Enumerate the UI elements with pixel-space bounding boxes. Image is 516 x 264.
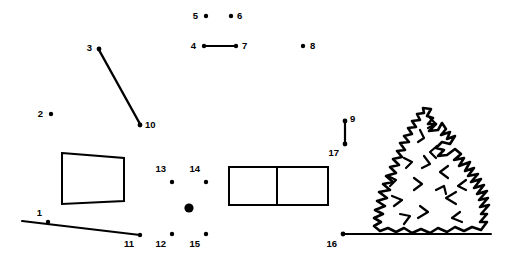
numbered-dot-13[interactable]: 13 xyxy=(155,163,174,184)
dot-marker xyxy=(49,112,53,116)
pine-tree-branch-mark xyxy=(418,206,428,218)
connector-lines-group xyxy=(99,46,345,143)
numbered-dot-10[interactable]: 10 xyxy=(138,119,156,130)
dot-marker xyxy=(138,123,143,128)
dot-marker xyxy=(204,180,208,184)
dot-marker xyxy=(138,233,142,237)
numbered-dot-1[interactable]: 1 xyxy=(37,207,50,224)
pine-tree-branch-mark xyxy=(422,156,430,168)
dot-number-label: 13 xyxy=(155,163,166,174)
pine-tree-branch-mark xyxy=(392,196,402,206)
dot-marker xyxy=(229,14,233,18)
dot-number-label: 12 xyxy=(155,238,166,249)
dot-marker xyxy=(234,44,238,48)
dot-number-label: 1 xyxy=(37,207,43,218)
numbered-dot-2[interactable]: 2 xyxy=(38,108,53,119)
numbered-dot-6[interactable]: 6 xyxy=(229,10,242,21)
dot-number-label: 17 xyxy=(328,147,339,158)
pine-tree-branch-mark xyxy=(418,130,424,142)
pine-tree-branch-mark xyxy=(404,158,412,168)
rectangle-right xyxy=(229,167,328,205)
dot-number-label: 11 xyxy=(124,238,135,249)
numbered-dot-7[interactable]: 7 xyxy=(234,40,247,51)
numbered-dot-4[interactable]: 4 xyxy=(191,40,206,51)
dot-number-label: 2 xyxy=(38,108,43,119)
pine-tree-branch-mark xyxy=(440,166,448,178)
dot-number-label: 9 xyxy=(350,113,355,124)
pine-tree-branch-mark xyxy=(458,180,466,190)
dot-number-label: 3 xyxy=(87,42,92,53)
unnumbered-marks-group xyxy=(184,203,193,212)
numbered-dot-17[interactable]: 17 xyxy=(328,142,347,158)
line-3-to-10 xyxy=(99,50,140,124)
dot-marker xyxy=(46,220,50,224)
dot-marker xyxy=(343,142,348,147)
connect-the-dots-scene: 1234567891011121314151617 xyxy=(0,0,516,264)
numbered-dot-3[interactable]: 3 xyxy=(87,42,102,53)
dot-marker xyxy=(170,180,174,184)
numbered-dot-5[interactable]: 5 xyxy=(193,10,208,21)
dot-number-label: 5 xyxy=(193,10,199,21)
pine-tree-branch-mark xyxy=(414,178,422,190)
pine-tree-branch-mark xyxy=(430,146,437,158)
pine-tree-illustration xyxy=(374,108,489,233)
numbered-dot-11[interactable]: 11 xyxy=(124,233,142,249)
quadrilateral-left xyxy=(62,153,124,204)
dot-number-label: 6 xyxy=(237,10,242,21)
dot-marker xyxy=(301,44,305,48)
numbered-dots-group: 1234567891011121314151617 xyxy=(37,10,356,249)
pine-tree-branch-mark xyxy=(436,186,446,194)
dot-number-label: 7 xyxy=(242,40,247,51)
numbered-dot-9[interactable]: 9 xyxy=(343,113,356,124)
numbered-dot-14[interactable]: 14 xyxy=(189,163,208,184)
dot-marker xyxy=(204,232,208,236)
pine-tree-branch-mark xyxy=(452,212,462,222)
puzzle-canvas: 1234567891011121314151617 xyxy=(0,0,516,264)
numbered-dot-12[interactable]: 12 xyxy=(155,232,174,249)
dot-marker xyxy=(343,119,348,124)
dot-marker xyxy=(204,14,208,18)
numbered-dot-16[interactable]: 16 xyxy=(326,232,345,249)
numbered-dot-15[interactable]: 15 xyxy=(189,232,208,249)
dot-marker xyxy=(202,44,206,48)
dot-marker xyxy=(170,232,174,236)
geometric-shapes-group xyxy=(62,153,328,205)
dot-number-label: 14 xyxy=(189,163,200,174)
dot-number-label: 4 xyxy=(191,40,197,51)
dot-number-label: 8 xyxy=(310,40,315,51)
dot-number-label: 16 xyxy=(326,238,337,249)
dot-marker xyxy=(341,232,346,237)
ground-line-left xyxy=(22,221,140,235)
numbered-dot-8[interactable]: 8 xyxy=(301,40,315,51)
pine-tree-branch-mark xyxy=(400,214,410,224)
dot-number-label: 15 xyxy=(189,238,200,249)
large-center-dot xyxy=(184,203,193,212)
pine-tree-branch-mark xyxy=(446,192,456,204)
dot-marker xyxy=(97,47,102,52)
dot-number-label: 10 xyxy=(145,119,156,130)
